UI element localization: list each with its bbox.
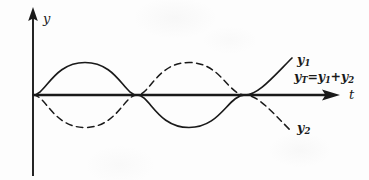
- curve-label-y2: y2: [297, 122, 310, 136]
- curve-y2-dashed: [33, 63, 292, 133]
- formula-term2-subscript: 2: [348, 75, 354, 85]
- formula-equals: =: [307, 69, 317, 84]
- resultant-formula: yT=y1+y2: [294, 71, 354, 85]
- curve-label-y1: y1: [297, 54, 310, 68]
- curve-y1-solid: [33, 58, 292, 128]
- formula-term1: y: [318, 69, 325, 84]
- waveform-figure: y t y1 y2 yT=y1+y2: [0, 0, 369, 180]
- formula-term2: y: [341, 69, 348, 84]
- t-axis-label: t: [349, 88, 354, 101]
- y-axis-label: y: [43, 12, 50, 25]
- curve-label-y1-subscript: 1: [304, 58, 310, 68]
- curve-label-y2-subscript: 2: [304, 126, 310, 136]
- formula-plus: +: [331, 69, 341, 84]
- plot-canvas: [0, 0, 369, 180]
